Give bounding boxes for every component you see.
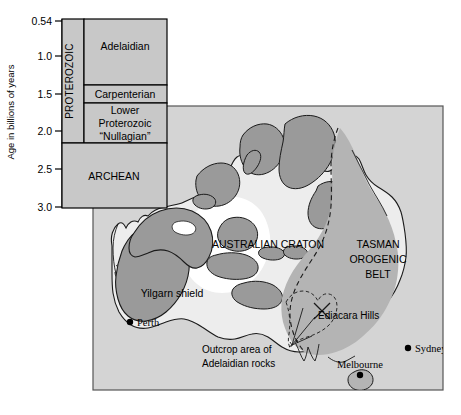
unit-label-lower-proterozoic-line-2: Proterozoic bbox=[98, 117, 151, 129]
label-tasman-line-1: TASMAN bbox=[357, 238, 400, 250]
city-label-perth: Perth bbox=[137, 317, 160, 328]
tick-label-1: 1.0 bbox=[37, 50, 52, 62]
label-yilgarn-shield: Yilgarn shield bbox=[141, 287, 204, 299]
time-column-panel: 0.54 1.0 1.5 2.0 2.5 3.0 Age in billions… bbox=[5, 15, 167, 213]
axis-title-age: Age in billions of years bbox=[5, 64, 16, 159]
label-australian-craton: AUSTRALIAN CRATON bbox=[212, 238, 324, 250]
age-axis-tick-labels: 0.54 1.0 1.5 2.0 2.5 3.0 bbox=[32, 15, 53, 213]
label-outcrop-line-1: Outcrop area of bbox=[202, 344, 272, 355]
unit-label-lower-proterozoic-line-1: Lower bbox=[111, 104, 140, 116]
city-label-melbourne: Melbourne bbox=[337, 359, 383, 370]
unit-label-adelaidian: Adelaidian bbox=[100, 40, 149, 52]
label-ediacara-hills: Ediacara Hills bbox=[318, 310, 379, 321]
city-dot-perth bbox=[127, 319, 133, 325]
label-tasman-line-3: BELT bbox=[365, 268, 391, 280]
unit-cell-adelaidian bbox=[84, 19, 167, 85]
age-axis-ticks bbox=[55, 21, 62, 207]
figure-root: Pilbara shield Yilgarn shield AUSTRALIAN… bbox=[0, 0, 461, 415]
tick-label-0: 0.54 bbox=[32, 15, 53, 27]
city-label-sydney: Sydney bbox=[415, 343, 447, 354]
craton-block-musgrave bbox=[207, 253, 258, 280]
unit-label-lower-proterozoic-line-3: “Nullagian” bbox=[100, 130, 151, 142]
label-tasman-line-2: OROGENIC bbox=[349, 253, 407, 265]
eon-label-proterozoic: PROTEROZOIC bbox=[64, 43, 75, 119]
city-dot-melbourne bbox=[357, 372, 363, 378]
label-pilbara-shield: Pilbara shield bbox=[0, 0, 4, 2]
city-dot-sydney bbox=[405, 345, 411, 351]
tick-label-5: 3.0 bbox=[37, 201, 52, 213]
tick-label-4: 2.5 bbox=[37, 163, 52, 175]
unit-label-archean: ARCHEAN bbox=[88, 170, 139, 182]
tick-label-3: 2.0 bbox=[37, 125, 52, 137]
figure-svg: Pilbara shield Yilgarn shield AUSTRALIAN… bbox=[0, 0, 461, 415]
label-outcrop-line-2: Adelaidian rocks bbox=[202, 358, 275, 369]
unit-label-carpenterian: Carpenterian bbox=[95, 88, 156, 100]
tick-label-2: 1.5 bbox=[37, 88, 52, 100]
